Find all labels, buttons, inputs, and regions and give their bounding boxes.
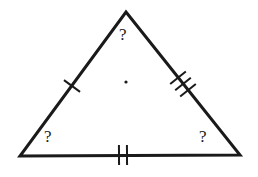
center-dot (124, 80, 127, 83)
angle-label-bottom-right: ? (199, 128, 207, 145)
left-side-tick-group (64, 80, 80, 92)
angle-label-bottom-left: ? (44, 128, 52, 145)
congruence-tick-left-1 (64, 80, 80, 92)
angle-label-apex: ? (119, 26, 127, 43)
triangle-outline (20, 12, 240, 156)
triangle-diagram-svg (0, 0, 258, 177)
geometry-figure: ? ? ? (0, 0, 258, 177)
